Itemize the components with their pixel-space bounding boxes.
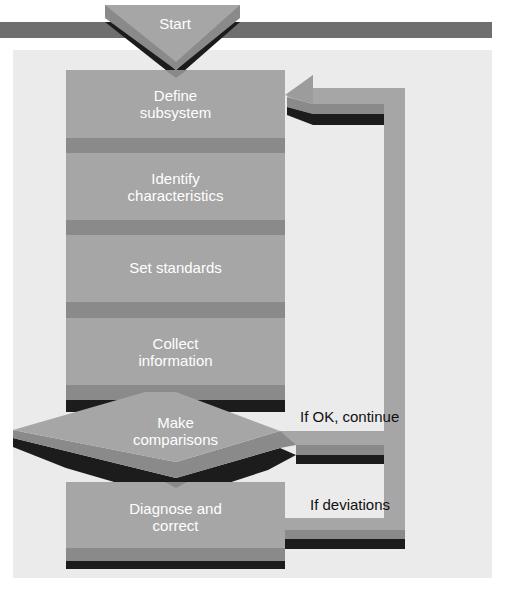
step-collect: Collect information [66,335,285,369]
note-ok-text: If OK, continue [300,408,399,425]
feedback-loop [285,75,405,548]
correct-label: Diagnose and correct [66,500,285,534]
step-collect-line2: information [66,352,285,369]
step-define-line2: subsystem [66,104,285,121]
note-deviations: If deviations [310,496,390,513]
note-deviations-text: If deviations [310,496,390,513]
ok-track [280,431,384,464]
correct-line2: correct [66,517,285,534]
note-ok: If OK, continue [300,408,399,425]
start-text: Start [159,15,191,32]
step-identify-line1: Identify [66,170,285,187]
step-standards: Set standards [66,259,285,276]
step-identify-line2: characteristics [66,187,285,204]
decision-line1: Make [66,414,285,431]
step-define: Define subsystem [66,87,285,121]
step-standards-line1: Set standards [66,259,285,276]
decision-line2: comparisons [66,431,285,448]
start-label: Start [140,15,210,32]
step-define-line1: Define [66,87,285,104]
step-collect-line1: Collect [66,335,285,352]
decision-label: Make comparisons [66,414,285,448]
correct-line1: Diagnose and [66,500,285,517]
step-identify: Identify characteristics [66,170,285,204]
